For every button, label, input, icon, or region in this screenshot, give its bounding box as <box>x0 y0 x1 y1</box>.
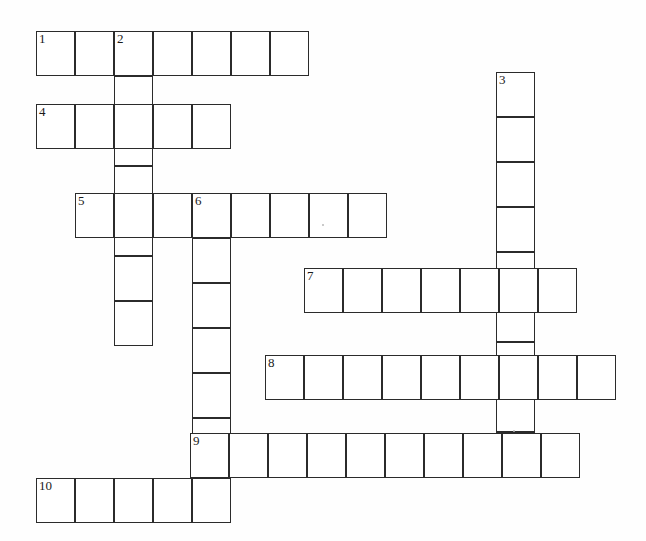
scan-speck-1 <box>513 430 515 432</box>
crossword-cell[interactable]: 5 <box>75 193 114 238</box>
crossword-cell[interactable]: 10 <box>36 478 75 523</box>
crossword-cell[interactable] <box>192 31 231 76</box>
crossword-cell[interactable] <box>270 193 309 238</box>
cell-number-5: 5 <box>78 193 85 208</box>
crossword-cell[interactable] <box>231 31 270 76</box>
cell-number-9: 9 <box>193 433 200 448</box>
crossword-cell[interactable]: 7 <box>304 268 343 313</box>
crossword-cell[interactable] <box>343 268 382 313</box>
cell-number-7: 7 <box>307 268 314 283</box>
cell-number-10: 10 <box>39 478 52 493</box>
crossword-cell[interactable] <box>307 433 346 478</box>
crossword-cell[interactable]: 9 <box>190 433 229 478</box>
crossword-cell[interactable] <box>460 355 499 400</box>
crossword-cell[interactable] <box>346 433 385 478</box>
crossword-cell[interactable] <box>348 193 387 238</box>
crossword-cell[interactable] <box>496 117 535 162</box>
crossword-cell[interactable] <box>538 355 577 400</box>
crossword-cell[interactable]: 4 <box>36 104 75 149</box>
crossword-cell[interactable] <box>270 31 309 76</box>
crossword-cell[interactable] <box>538 268 577 313</box>
crossword-cell[interactable] <box>229 433 268 478</box>
crossword-cell[interactable] <box>114 104 153 149</box>
crossword-cell[interactable] <box>496 207 535 252</box>
crossword-cell[interactable] <box>304 355 343 400</box>
cell-number-4: 4 <box>39 104 46 119</box>
crossword-cell[interactable] <box>343 355 382 400</box>
crossword-grid[interactable]: 12345678910 <box>0 0 646 541</box>
crossword-cell[interactable] <box>231 193 270 238</box>
crossword-cell[interactable] <box>382 268 421 313</box>
crossword-cell[interactable] <box>192 238 231 283</box>
crossword-cell[interactable] <box>114 301 153 346</box>
crossword-cell[interactable] <box>502 433 541 478</box>
crossword-puzzle: 12345678910 <box>0 0 646 541</box>
crossword-cell[interactable]: 8 <box>265 355 304 400</box>
crossword-cell[interactable] <box>75 104 114 149</box>
crossword-cell[interactable]: 1 <box>36 31 75 76</box>
cell-number-8: 8 <box>268 355 275 370</box>
cell-number-3: 3 <box>499 72 506 87</box>
crossword-cell[interactable] <box>75 478 114 523</box>
crossword-cell[interactable]: 2 <box>114 31 153 76</box>
crossword-cell[interactable] <box>463 433 502 478</box>
crossword-cell[interactable]: 3 <box>496 72 535 117</box>
crossword-cell[interactable] <box>385 433 424 478</box>
crossword-cell[interactable] <box>424 433 463 478</box>
crossword-cell[interactable] <box>421 355 460 400</box>
crossword-cell[interactable] <box>192 328 231 373</box>
crossword-cell[interactable] <box>192 478 231 523</box>
crossword-cell[interactable] <box>268 433 307 478</box>
cell-number-2: 2 <box>117 31 124 46</box>
crossword-cell[interactable] <box>153 31 192 76</box>
crossword-cell[interactable] <box>153 104 192 149</box>
crossword-cell[interactable] <box>421 268 460 313</box>
crossword-cell[interactable] <box>499 355 538 400</box>
crossword-cell[interactable] <box>499 268 538 313</box>
crossword-cell[interactable]: 6 <box>192 193 231 238</box>
crossword-cell[interactable] <box>114 193 153 238</box>
crossword-cell[interactable] <box>192 373 231 418</box>
crossword-cell[interactable] <box>114 478 153 523</box>
crossword-cell[interactable] <box>114 256 153 301</box>
crossword-cell[interactable] <box>541 433 580 478</box>
crossword-cell[interactable] <box>192 283 231 328</box>
crossword-cell[interactable] <box>577 355 616 400</box>
cell-number-1: 1 <box>39 31 46 46</box>
crossword-cell[interactable] <box>192 104 231 149</box>
crossword-cell[interactable] <box>153 193 192 238</box>
crossword-cell[interactable] <box>496 162 535 207</box>
crossword-cell[interactable] <box>309 193 348 238</box>
crossword-cell[interactable] <box>460 268 499 313</box>
crossword-cell[interactable] <box>382 355 421 400</box>
cell-number-6: 6 <box>195 193 202 208</box>
scan-speck-0 <box>322 224 324 226</box>
crossword-cell[interactable] <box>153 478 192 523</box>
crossword-cell[interactable] <box>75 31 114 76</box>
